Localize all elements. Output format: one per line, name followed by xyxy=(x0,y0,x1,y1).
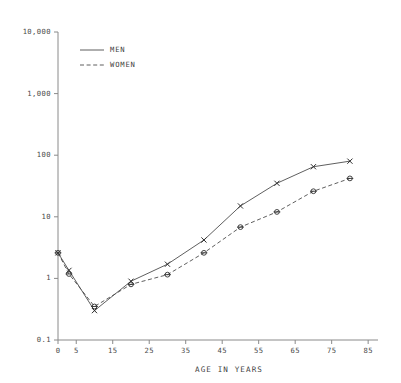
x-axis-tick-label: 65 xyxy=(290,346,299,355)
legend-label-men: MEN xyxy=(110,45,125,54)
x-axis-tick-label: 45 xyxy=(217,346,226,355)
y-axis: 10,0001,0001001010.1 xyxy=(23,27,58,344)
series-line-women xyxy=(58,178,350,306)
chart-legend: MENWOMEN xyxy=(80,45,136,69)
data-point-marker-circle xyxy=(347,176,354,181)
data-point-marker-circle xyxy=(237,225,244,230)
data-point-marker-x xyxy=(165,262,170,267)
x-axis: 051525354555657585 xyxy=(56,340,378,355)
series-line-men xyxy=(58,161,350,310)
y-axis-tick-label: 10,000 xyxy=(23,27,51,36)
x-axis-tick-label: 75 xyxy=(327,346,336,355)
line-chart-svg: 10,0001,0001001010.1 051525354555657585 … xyxy=(0,0,401,383)
y-axis-tick-label: 1,000 xyxy=(27,89,51,98)
chart-container: 10,0001,0001001010.1 051525354555657585 … xyxy=(0,0,401,383)
x-axis-tick-label: 35 xyxy=(181,346,190,355)
legend-label-women: WOMEN xyxy=(110,60,136,69)
x-axis-tick-label: 15 xyxy=(108,346,117,355)
data-point-marker-circle xyxy=(274,210,281,215)
y-axis-tick-label: 0.1 xyxy=(37,335,51,344)
y-axis-tick-label: 10 xyxy=(42,212,51,221)
y-axis-tick-label: 100 xyxy=(37,150,51,159)
data-point-marker-x xyxy=(238,203,243,208)
y-axis-tick-label: 1 xyxy=(46,273,51,282)
x-axis-title: AGE IN YEARS xyxy=(195,365,263,374)
x-axis-tick-label: 25 xyxy=(144,346,153,355)
data-series-group xyxy=(55,159,354,314)
x-axis-tick-label: 85 xyxy=(363,346,372,355)
x-axis-tick-label: 55 xyxy=(254,346,263,355)
x-axis-tick-label: 0 xyxy=(56,346,61,355)
data-point-marker-x xyxy=(274,181,279,186)
x-axis-tick-label: 5 xyxy=(74,346,79,355)
data-point-marker-x xyxy=(201,237,206,242)
